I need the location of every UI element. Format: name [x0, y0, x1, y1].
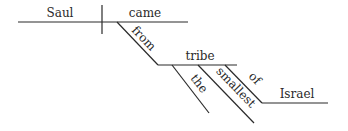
- preposition-of-word: of: [246, 69, 265, 88]
- sentence-diagram: Saul came from tribe the smallest of Isr…: [0, 0, 348, 131]
- verb-word: came: [129, 6, 161, 20]
- object-israel-word: Israel: [280, 87, 315, 101]
- object-tribe-word: tribe: [185, 49, 214, 63]
- subject-word: Saul: [47, 6, 74, 20]
